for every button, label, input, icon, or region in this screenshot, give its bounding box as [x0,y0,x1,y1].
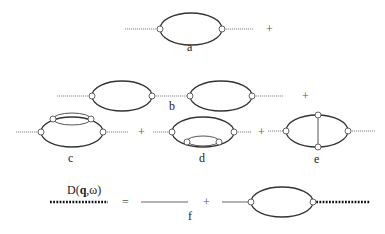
bubble-loop [172,117,234,147]
vertex-icon [310,199,316,205]
diagram-c: c [16,113,128,165]
vertex-icon [184,139,190,145]
plus-operator: + [203,195,210,209]
vertex-icon [219,26,225,32]
vertex-icon [149,93,155,99]
vertex-icon [315,144,321,150]
vertex-icon [38,129,44,135]
diagram-f: D(q,ω) = f + [50,183,370,223]
vertex-icon [50,116,56,122]
vertex-icon [100,129,106,135]
diagram-label-e: e [314,152,319,166]
diagram-label-a: a [187,40,193,54]
diagram-d: d [153,117,252,165]
vertex-icon [345,128,351,134]
vertex-icon [315,112,321,118]
vertex-icon [248,199,254,205]
diagram-a: a [125,13,254,54]
feynman-diagram-figure: a + b + c + d + [0,0,385,234]
diagram-b: b [57,81,284,113]
vertex-icon [169,129,175,135]
plus-operator: + [138,125,145,139]
vertex-icon [187,93,193,99]
vertex-icon [249,93,255,99]
self-energy-insertion [187,136,219,146]
equals-operator: = [122,195,129,209]
bubble-loop [41,117,103,147]
bubble-loop-left [92,81,152,111]
vertex-icon [89,93,95,99]
vertex-icon [216,139,222,145]
plus-operator: + [302,89,309,103]
propagator-label: D(q,ω) [67,183,101,197]
plus-operator: + [266,22,273,36]
diagram-label-d: d [199,151,205,165]
vertex-icon [283,128,289,134]
diagram-e: e [268,112,375,166]
vertex-icon [231,129,237,135]
diagram-label-c: c [68,151,73,165]
vertex-icon [157,26,163,32]
diagram-label-f: f [188,209,192,223]
vertex-icon [88,116,94,122]
bubble-loop-right [190,81,252,111]
plus-operator: + [258,125,265,139]
bubble-loop [286,115,348,147]
diagram-label-b: b [169,99,175,113]
bubble-loop [251,187,313,217]
